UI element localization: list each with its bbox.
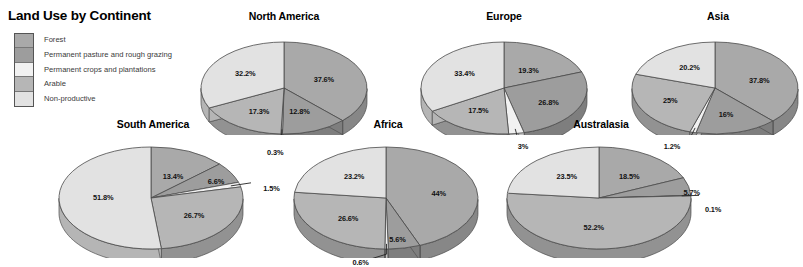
pie-chart-south-america: South America13.4%6.6%1.5%26.7%51.8% [55,118,251,258]
pie-slice-percentage-label: 20.2% [679,62,699,71]
legend-swatch [15,77,33,91]
pie-slice-percentage-label: 5.6% [389,234,405,243]
pie-slice [507,147,599,198]
pie-slice-percentage-label: 0.1% [705,205,721,214]
legend-swatch [15,63,33,77]
pie-slice-percentage-label: 37.8% [749,76,769,85]
pie-slice-percentage-label: 25% [663,96,678,105]
pie-slice-percentage-label: 0.6% [352,258,368,267]
pie-slice-percentage-label: 52.2% [584,223,604,232]
pie-slice-percentage-label: 12.8% [289,107,309,116]
legend-swatch [15,48,33,62]
pie-slice-percentage-label: 17.3% [249,107,269,116]
pie-chart-canvas [55,118,251,258]
pie-slice [295,147,386,198]
pie-chart-australasia: Australasia18.5%5.7%0.1%52.2%23.5% [503,118,699,258]
pie-slice-percentage-label: 26.7% [184,211,204,220]
pie-slice-percentage-label: 13.4% [163,171,183,180]
pie-chart-canvas [630,10,803,135]
pie-chart-europe: Europe19.3%26.8%3%17.5%33.4% [416,10,592,135]
pie-chart-canvas [196,10,372,135]
pie-chart-africa: Africa44%5.6%0.6%26.6%23.2% [290,118,486,258]
pie-chart-canvas [416,10,592,135]
legend-swatch-column [14,33,34,107]
pie-slice-percentage-label: 18.5% [619,171,639,180]
pie-slice-percentage-label: 23.5% [557,172,577,181]
pie-slice-percentage-label: 33.4% [454,69,474,78]
pie-slice-percentage-label: 5.7% [684,187,700,196]
pie-slice-percentage-label: 6.6% [208,177,224,186]
legend-swatch [15,92,33,106]
pie-slice-percentage-label: 0.3% [267,148,283,157]
pie-slice-percentage-label: 37.6% [314,74,334,83]
chart-legend: ForestPermanent pasture and rough grazin… [14,33,197,107]
pie-slice-percentage-label: 17.5% [468,106,488,115]
pie-slice-percentage-label: 23.2% [344,172,364,181]
pie-chart-canvas [503,118,699,258]
legend-swatch [15,34,33,48]
pie-chart-canvas [290,118,486,258]
pie-slice-percentage-label: 26.8% [538,97,558,106]
pie-chart-north-america: North America37.6%12.8%0.3%17.3%32.2% [196,10,372,135]
pie-slice-percentage-label: 32.2% [235,68,255,77]
pie-slice-percentage-label: 16% [719,110,734,119]
pie-slice-percentage-label: 1.5% [263,183,279,192]
pie-slice-percentage-label: 26.6% [338,213,358,222]
pie-chart-asia: Asia37.8%16%1.2%25%20.2% [630,10,803,135]
pie-slice-percentage-label: 51.8% [93,193,113,202]
page-title: Land Use by Continent [8,8,151,23]
pie-slice-percentage-label: 44% [432,188,447,197]
pie-slice-percentage-label: 19.3% [518,66,538,75]
